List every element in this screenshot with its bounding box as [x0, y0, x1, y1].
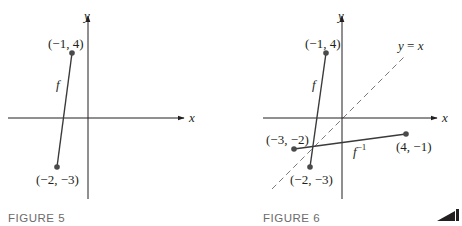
x-axis-label: x	[441, 110, 448, 125]
y-axis-label: y	[82, 8, 90, 23]
figure-5: x y (−1, 4) (−2, −3) f FIGURE 5	[8, 8, 195, 224]
segment-f-inverse	[294, 134, 406, 149]
point-neg2-neg3	[307, 164, 313, 170]
point-label-4-neg1: (4, −1)	[396, 139, 432, 154]
reference-line-label: y = x	[396, 38, 424, 53]
y-axis-label: y	[336, 8, 344, 23]
point-4-neg1	[403, 131, 409, 137]
point-label-neg2-neg3: (−2, −3)	[36, 172, 79, 187]
point-label-neg1-4: (−1, 4)	[305, 36, 341, 51]
point-neg3-neg2	[291, 146, 297, 152]
segment-f	[57, 53, 72, 167]
point-label-neg3-neg2: (−3, −2)	[266, 132, 309, 147]
point-label-neg1-4: (−1, 4)	[48, 36, 84, 51]
segment-label-f: f	[56, 77, 62, 92]
figure-caption: FIGURE 6	[263, 212, 320, 224]
page-corner-icon	[437, 209, 459, 221]
reference-line-y-equals-x	[272, 55, 406, 189]
figure-6: y = x x y (−1, 4) (−2, −3) (−3, −2) (4, …	[263, 8, 459, 224]
segment-label-f: f	[312, 77, 318, 92]
point-neg1-4	[69, 50, 75, 56]
point-label-neg2-neg3: (−2, −3)	[290, 172, 333, 187]
segment-label-f-inverse: f−1	[353, 142, 366, 159]
x-axis-label: x	[188, 110, 195, 125]
figure-caption: FIGURE 5	[8, 212, 65, 224]
segment-f	[310, 53, 326, 167]
point-neg2-neg3	[54, 164, 60, 170]
figures-canvas: x y (−1, 4) (−2, −3) f FIGURE 5 y = x x …	[0, 0, 462, 226]
point-neg1-4	[323, 50, 329, 56]
